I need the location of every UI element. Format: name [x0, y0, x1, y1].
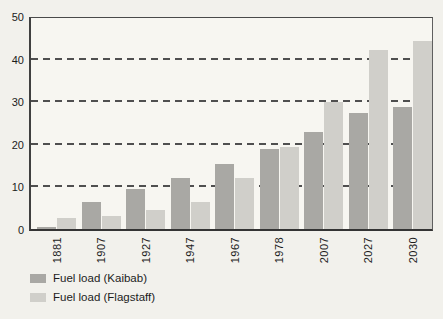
bar-flagstaff-2007: [324, 102, 343, 229]
bar-kaibab-2007: [304, 132, 323, 229]
bar-kaibab-1978: [260, 149, 279, 229]
x-tick-label-1967: 1967: [228, 232, 242, 268]
legend-label-flagstaff: Fuel load (Flagstaff): [53, 291, 155, 303]
x-tick-label-1881: 1881: [50, 232, 64, 268]
legend: Fuel load (Kaibab) Fuel load (Flagstaff): [30, 271, 155, 309]
x-tick-label-1947: 1947: [183, 232, 197, 268]
y-tick-label-10: 10: [0, 180, 24, 194]
y-tick-label-50: 50: [0, 10, 24, 24]
bar-kaibab-2030: [393, 107, 412, 229]
x-tick-label-1978: 1978: [272, 232, 286, 268]
bar-kaibab-2027: [349, 113, 368, 229]
plot-area: [29, 17, 433, 231]
bar-flagstaff-1907: [102, 216, 121, 229]
fuel-load-figure: 01020304050 1881190719271947196719782007…: [0, 0, 443, 319]
bar-kaibab-1927: [126, 189, 145, 229]
bar-kaibab-1967: [215, 164, 234, 229]
bar-kaibab-1947: [171, 178, 190, 229]
x-tick-label-1907: 1907: [94, 232, 108, 268]
legend-label-kaibab: Fuel load (Kaibab): [53, 272, 147, 284]
bar-flagstaff-1978: [280, 147, 299, 229]
legend-swatch-kaibab: [30, 274, 46, 283]
x-tick-label-2027: 2027: [361, 232, 375, 268]
legend-item-flagstaff: Fuel load (Flagstaff): [30, 290, 155, 304]
x-tick-label-2007: 2007: [317, 232, 331, 268]
bar-flagstaff-1927: [146, 210, 165, 229]
bar-kaibab-1907: [82, 202, 101, 229]
bar-flagstaff-2030: [413, 41, 432, 229]
y-tick-label-30: 30: [0, 95, 24, 109]
bar-flagstaff-2027: [369, 50, 388, 229]
legend-item-kaibab: Fuel load (Kaibab): [30, 271, 155, 285]
x-tick-label-2030: 2030: [406, 232, 420, 268]
legend-swatch-flagstaff: [30, 293, 46, 302]
bar-flagstaff-1947: [191, 202, 210, 229]
bar-kaibab-1881: [37, 227, 56, 229]
bar-flagstaff-1967: [235, 178, 254, 229]
y-tick-label-0: 0: [0, 223, 24, 237]
y-tick-label-40: 40: [0, 53, 24, 67]
x-tick-label-1927: 1927: [139, 232, 153, 268]
y-tick-label-20: 20: [0, 138, 24, 152]
bar-flagstaff-1881: [57, 218, 76, 229]
